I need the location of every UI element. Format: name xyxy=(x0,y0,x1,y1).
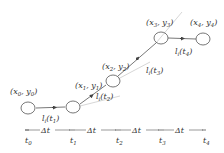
point-circles xyxy=(21,32,210,114)
segment-label-2: li(t2) xyxy=(96,92,113,102)
tick-label-t2: t2 xyxy=(116,136,123,146)
tick-label-t1: t1 xyxy=(70,136,77,146)
delta-label-1: Δt xyxy=(40,126,51,135)
point-circle-4 xyxy=(196,33,210,45)
point-label-2: (x2, y2) xyxy=(102,62,129,72)
tick-label-t4: t4 xyxy=(203,136,210,146)
segment-label-1: li(t1) xyxy=(42,114,59,124)
point-label-0: (x0, y0) xyxy=(10,87,37,97)
timeline: Δt Δt Δt Δt t0 t1 t2 t3 t4 xyxy=(25,126,210,146)
segment-1 xyxy=(36,107,65,108)
delta-label-4: Δt xyxy=(174,126,185,135)
delta-label-2: Δt xyxy=(86,126,97,135)
point-label-4: (x4, y4) xyxy=(190,18,217,28)
point-labels: (x0, y0) (x1, y1) (x2, y2) (x3, y3) (x4,… xyxy=(10,18,217,97)
segment-label-3: li(t3) xyxy=(146,66,163,76)
tick-label-t0: t0 xyxy=(25,136,32,146)
segment-label-4: li(t4) xyxy=(175,47,192,57)
point-circle-0 xyxy=(21,102,35,114)
point-circle-2 xyxy=(106,75,120,87)
point-label-3: (x3, y3) xyxy=(146,18,173,28)
tick-label-t3: t3 xyxy=(159,136,166,146)
delta-label-3: Δt xyxy=(131,126,142,135)
point-circle-1 xyxy=(66,101,80,113)
trajectory-diagram: (x0, y0) (x1, y1) (x2, y2) (x3, y3) (x4,… xyxy=(0,0,224,153)
point-circle-3 xyxy=(154,32,168,44)
point-label-1: (x1, y1) xyxy=(75,81,102,91)
